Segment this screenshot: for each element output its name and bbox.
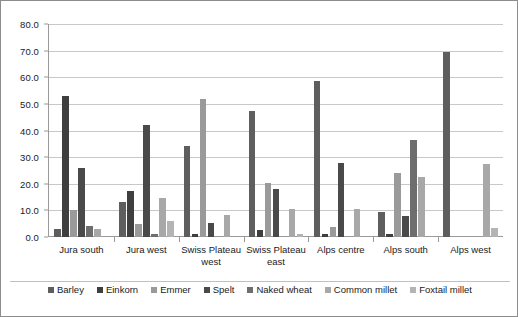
bar [86, 226, 93, 237]
bar [54, 229, 61, 237]
bar [224, 215, 231, 237]
bar [314, 81, 321, 237]
bar [119, 202, 126, 237]
legend-swatch-icon [151, 287, 157, 293]
x-axis-category-label: Jura south [49, 244, 114, 256]
legend-swatch-icon [48, 287, 54, 293]
x-axis-category-label: Alps centre [308, 244, 373, 256]
bar [402, 216, 409, 237]
y-axis-tick-label: 50.0 [20, 98, 39, 109]
legend-label: Einkorn [106, 284, 138, 295]
bar-group [244, 24, 309, 237]
x-axis-category-label: Swiss Plateau east [244, 244, 309, 267]
legend-label: Naked wheat [256, 284, 311, 295]
x-axis-tick-mark [373, 237, 374, 242]
bar [265, 183, 272, 237]
legend-swatch-icon [325, 287, 331, 293]
legend-item: Barley [48, 284, 84, 295]
y-axis: 0.010.020.030.040.050.060.070.080.0 [1, 24, 44, 237]
bar [418, 177, 425, 237]
bar [208, 223, 215, 237]
bar [159, 198, 166, 237]
bar [143, 125, 150, 237]
bar [297, 234, 304, 237]
y-axis-tick-label: 20.0 [20, 178, 39, 189]
legend-item: Einkorn [97, 284, 138, 295]
y-axis-tick-label: 0.0 [25, 232, 39, 243]
bar [151, 234, 158, 237]
x-axis-tick-mark [114, 237, 115, 242]
bar [94, 229, 101, 237]
legend-label: Foxtail millet [419, 284, 472, 295]
bar [354, 209, 361, 237]
legend-swatch-icon [204, 287, 210, 293]
bar [394, 173, 401, 237]
bar [184, 146, 191, 237]
legend-divider [10, 281, 510, 282]
bar [386, 234, 393, 237]
legend-item: Spelt [204, 284, 235, 295]
x-axis-tick-mark [438, 237, 439, 242]
legend-swatch-icon [97, 287, 103, 293]
bar [257, 230, 264, 237]
y-axis-tick-label: 70.0 [20, 45, 39, 56]
bar [273, 189, 280, 237]
legend-item: Common millet [325, 284, 397, 295]
legend-label: Spelt [213, 284, 235, 295]
legend-label: Barley [57, 284, 84, 295]
x-axis-labels: Jura southJura westSwiss Plateau westSwi… [49, 244, 503, 278]
bar [483, 164, 490, 237]
y-axis-tick-label: 60.0 [20, 72, 39, 83]
y-axis-tick-label: 40.0 [20, 125, 39, 136]
x-axis-category-label: Swiss Plateau west [179, 244, 244, 267]
bar-group [49, 24, 114, 237]
legend-item: Foxtail millet [410, 284, 472, 295]
bar [200, 99, 207, 237]
bar-group [308, 24, 373, 237]
bar [249, 111, 256, 237]
bar [443, 52, 450, 237]
bar [330, 227, 337, 237]
y-axis-tick-label: 30.0 [20, 152, 39, 163]
legend-item: Emmer [151, 284, 191, 295]
legend-swatch-icon [410, 287, 416, 293]
bar [135, 224, 142, 237]
bar [491, 228, 498, 237]
bar-group [373, 24, 438, 237]
bar [289, 209, 296, 237]
bar [78, 168, 85, 237]
bar [70, 210, 77, 237]
legend-swatch-icon [247, 287, 253, 293]
bar [167, 221, 174, 237]
bar [410, 140, 417, 237]
x-axis-tick-mark [244, 237, 245, 242]
x-axis-category-label: Alps west [438, 244, 503, 256]
chart-legend: BarleyEinkornEmmerSpeltNaked wheatCommon… [1, 284, 518, 295]
bar [192, 234, 199, 237]
bar-group [179, 24, 244, 237]
y-axis-tick-label: 10.0 [20, 205, 39, 216]
legend-item: Naked wheat [247, 284, 311, 295]
x-axis-category-label: Alps south [373, 244, 438, 256]
bar [127, 191, 134, 237]
legend-label: Common millet [334, 284, 397, 295]
bar [62, 96, 69, 237]
bar [338, 163, 345, 237]
chart-container: 0.010.020.030.040.050.060.070.080.0 Jura… [0, 0, 518, 317]
x-axis-category-label: Jura west [114, 244, 179, 256]
bar [322, 234, 329, 237]
x-axis-tick-mark [179, 237, 180, 242]
bar-group [114, 24, 179, 237]
bars-layer [49, 24, 503, 237]
legend-label: Emmer [160, 284, 191, 295]
bar [378, 212, 385, 237]
y-axis-tick-label: 80.0 [20, 19, 39, 30]
x-axis-tick-mark [308, 237, 309, 242]
bar-group [438, 24, 503, 237]
